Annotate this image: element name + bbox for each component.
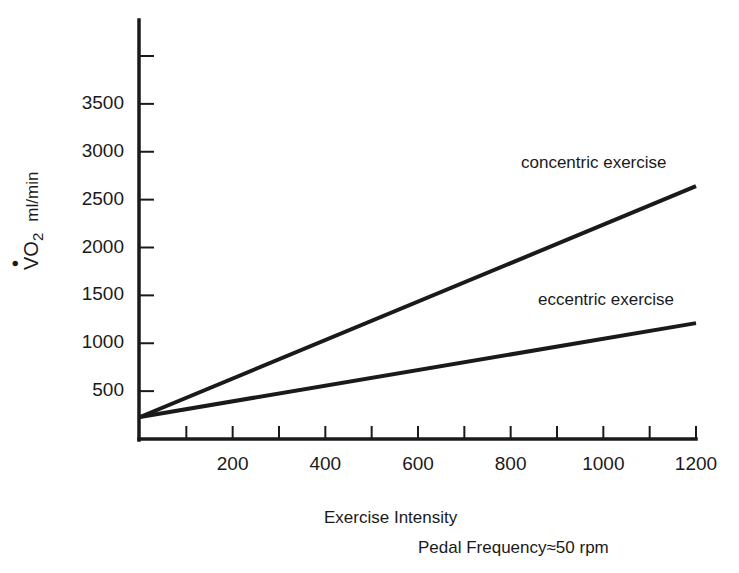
x-axis-label: Exercise Intensity <box>324 508 457 528</box>
y-tick-label: 1500 <box>44 284 124 304</box>
y-axis-label-unit: ml/min <box>23 172 42 222</box>
x-tick-label: 800 <box>471 454 551 474</box>
x-tick-label: 1200 <box>656 454 736 474</box>
y-tick-label: 3000 <box>44 141 124 161</box>
eccentric-exercise-line <box>140 323 696 417</box>
y-axis-label: •VO2 ml/min <box>20 172 46 270</box>
x-axis-ticks <box>186 427 696 439</box>
x-tick-label: 1000 <box>563 454 643 474</box>
series-label-eccentric: eccentric exercise <box>538 290 674 310</box>
y-tick-label: 2500 <box>44 189 124 209</box>
y-axis-ticks <box>139 56 153 391</box>
y-tick-label: 500 <box>44 380 124 400</box>
series-label-concentric: concentric exercise <box>521 153 667 173</box>
x-tick-label: 200 <box>193 454 273 474</box>
y-tick-label: 1000 <box>44 332 124 352</box>
pedal-frequency-note: Pedal Frequency≈50 rpm <box>418 538 609 558</box>
x-tick-label: 400 <box>285 454 365 474</box>
x-tick-label: 600 <box>378 454 458 474</box>
y-tick-label: 3500 <box>44 93 124 113</box>
y-tick-label: 2000 <box>44 237 124 257</box>
y-axis-label-subscript: 2 <box>29 233 46 241</box>
